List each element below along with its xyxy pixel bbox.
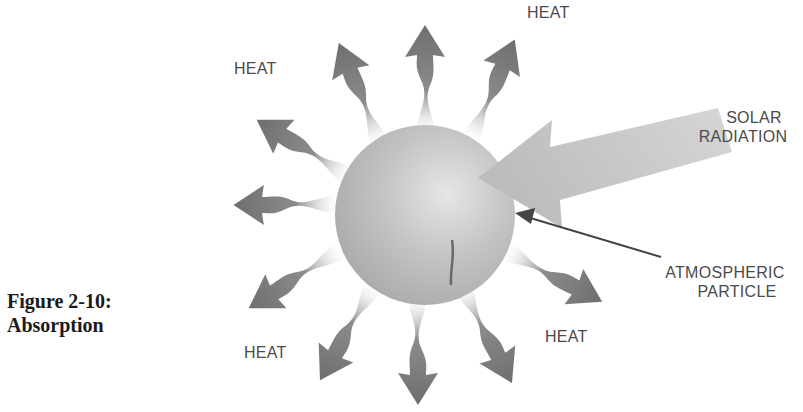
heat-label-bottom-right: HEAT xyxy=(545,327,588,346)
heat-arrow-up xyxy=(405,25,445,135)
heat-arrow-down xyxy=(398,295,438,405)
figure-number: Figure 2-10: xyxy=(7,289,112,313)
absorption-diagram xyxy=(0,0,803,412)
heat-arrow-up-right xyxy=(452,31,533,148)
heat-label-top-right: HEAT xyxy=(527,3,570,22)
particle-label-line2: PARTICLE xyxy=(648,282,802,301)
atmospheric-particle xyxy=(335,125,515,305)
solar-radiation-label: SOLAR RADIATION xyxy=(688,108,798,146)
heat-arrow-down-left xyxy=(303,275,393,390)
heat-arrow-lower-right xyxy=(496,232,612,319)
figure-caption: Figure 2-10: Absorption xyxy=(7,289,112,337)
atmospheric-particle-label: ATMOSPHERIC PARTICLE xyxy=(648,263,802,301)
particle-pointer xyxy=(515,208,661,257)
heat-label-bottom-left: HEAT xyxy=(244,343,287,362)
heat-arrow-lower-left xyxy=(238,233,352,325)
solar-label-line1: SOLAR xyxy=(688,108,798,127)
heat-arrow-left xyxy=(234,185,339,225)
figure-title: Absorption xyxy=(7,313,112,337)
solar-label-line2: RADIATION xyxy=(688,127,798,146)
heat-label-top-left: HEAT xyxy=(234,59,277,78)
particle-label-line1: ATMOSPHERIC xyxy=(648,263,802,282)
